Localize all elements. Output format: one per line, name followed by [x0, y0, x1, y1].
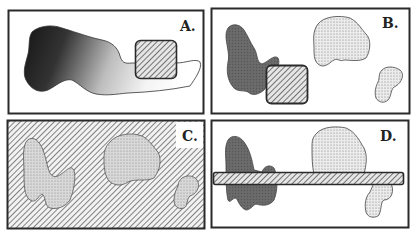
panel-d-label: D. [380, 128, 397, 144]
panel-d: D. [212, 121, 409, 228]
panel-c: C. [8, 121, 205, 229]
hatched-square [136, 41, 177, 79]
hatched-square [267, 66, 308, 104]
panel-a: A. [9, 11, 204, 114]
figure: A. B. C. D. [0, 0, 416, 237]
panel-b: B. [212, 9, 410, 114]
hatched-bar [214, 173, 404, 185]
panel-b-label: B. [382, 15, 399, 31]
panel-c-label: C. [182, 128, 198, 144]
panel-a-label: A. [179, 18, 196, 34]
